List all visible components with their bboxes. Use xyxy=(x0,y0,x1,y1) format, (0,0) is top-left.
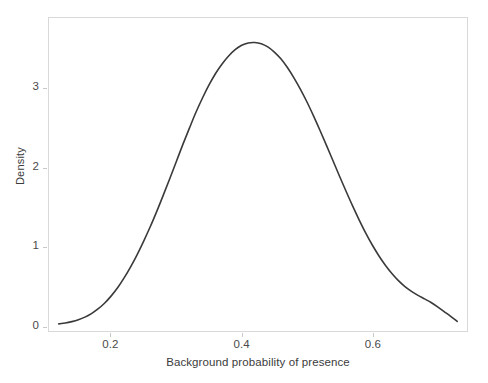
x-tick-mark xyxy=(373,333,374,337)
plot-area xyxy=(48,17,468,332)
y-tick-mark xyxy=(43,247,47,248)
x-tick-label: 0.4 xyxy=(222,338,262,350)
x-tick-label: 0.6 xyxy=(353,338,393,350)
y-tick-mark xyxy=(43,88,47,89)
y-tick-mark xyxy=(43,327,47,328)
density-curve-svg xyxy=(49,18,467,331)
y-tick-label: 2 xyxy=(13,160,39,172)
x-axis-title: Background probability of presence xyxy=(48,356,468,368)
x-tick-mark xyxy=(110,333,111,337)
density-plot-figure: Density 0123 0.20.40.6 Background probab… xyxy=(0,0,488,383)
y-tick-mark xyxy=(43,168,47,169)
x-tick-label: 0.2 xyxy=(90,338,130,350)
x-tick-mark xyxy=(242,333,243,337)
y-tick-label: 0 xyxy=(13,319,39,331)
density-curve-path xyxy=(59,43,457,324)
y-tick-label: 3 xyxy=(13,80,39,92)
y-tick-label: 1 xyxy=(13,239,39,251)
